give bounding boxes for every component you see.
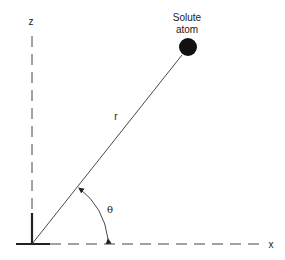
angle-arc [79,188,108,239]
radius-label: r [114,111,118,122]
radius-line [32,55,182,244]
solute-label-line2: atom [176,24,198,35]
solute-atom [179,38,197,56]
solute-label-line1: Solute [173,12,202,23]
angle-label: θ [107,204,113,215]
z-axis-label: z [29,16,34,27]
polar-coordinate-diagram: z x Solute atom r θ [0,0,285,260]
x-axis-label: x [269,239,274,250]
